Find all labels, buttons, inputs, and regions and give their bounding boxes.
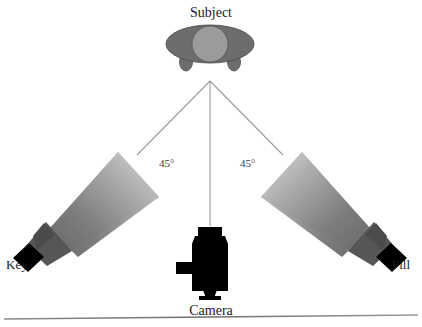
camera-grip <box>176 262 193 274</box>
key-light-group <box>13 152 159 272</box>
camera-viewfinder <box>198 227 222 236</box>
key-light-label: Key <box>6 258 28 271</box>
angle-label-left: 45° <box>159 158 174 169</box>
angle-guide-lines <box>137 81 283 226</box>
camera-label: Camera <box>0 304 422 318</box>
lighting-diagram: Subject Camera Key Fill 45° 45° <box>0 0 422 327</box>
camera-body <box>192 243 228 291</box>
subject-label: Subject <box>0 6 422 20</box>
key-axis-line <box>137 81 210 155</box>
fill-axis-line <box>210 81 283 155</box>
fill-light-label: Fill <box>392 258 410 271</box>
subject-head <box>192 26 228 62</box>
camera-figure <box>176 227 228 300</box>
camera-upper-body <box>192 236 228 244</box>
diagram-canvas <box>0 0 422 327</box>
camera-tripod-base <box>199 296 221 300</box>
fill-light-group <box>261 152 407 272</box>
subject-figure <box>166 25 254 71</box>
angle-label-right: 45° <box>240 158 255 169</box>
